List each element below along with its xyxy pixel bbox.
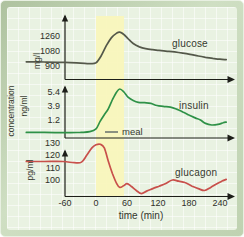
svg-text:180: 180 [181, 198, 196, 208]
glucose-unit-label: mg/l [32, 1, 42, 121]
glucagon-unit-label: pg/ml [25, 110, 35, 230]
svg-text:120: 120 [45, 150, 60, 160]
insulin-series-label: insulin [179, 100, 209, 111]
svg-text:1080: 1080 [40, 46, 60, 56]
x-axis-label: time (min) [96, 210, 186, 221]
glucagon-series-label: glucagon [175, 167, 217, 178]
meal-dash-icon [105, 131, 118, 133]
svg-text:60: 60 [122, 198, 132, 208]
svg-text:3.9: 3.9 [47, 101, 60, 111]
svg-text:120: 120 [150, 198, 165, 208]
svg-text:100: 100 [45, 175, 60, 185]
svg-text:1260: 1260 [40, 31, 60, 41]
svg-text:1.2: 1.2 [47, 115, 60, 125]
meal-annotation-label: meal [122, 126, 143, 137]
svg-text:110: 110 [46, 163, 60, 173]
meal-annotation: meal [105, 126, 143, 137]
svg-text:0: 0 [93, 198, 98, 208]
svg-text:-60: -60 [58, 198, 71, 208]
figure-container: 900108012601.23.95.4100110120130-6006012… [0, 0, 244, 237]
svg-text:240: 240 [212, 198, 227, 208]
y-axis-label-concentration: concentration [6, 51, 16, 171]
svg-text:130: 130 [45, 138, 60, 148]
svg-text:5.4: 5.4 [47, 87, 60, 97]
glucose-series-label: glucose [172, 38, 208, 49]
